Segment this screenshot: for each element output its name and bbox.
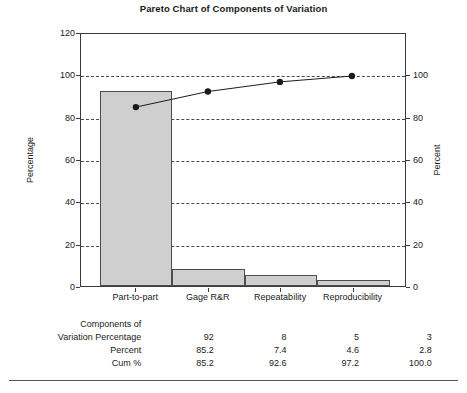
y-tick-mark-left-60	[76, 160, 80, 161]
footer-caption	[20, 384, 460, 393]
y-tick-mark-left-80	[76, 118, 80, 119]
y-tick-label-left-80: 80	[49, 113, 75, 122]
y-tick-mark-right-60	[406, 160, 410, 161]
table-header-spacer	[141, 318, 214, 331]
table-pad	[432, 318, 467, 331]
y-tick-label-left-120: 120	[49, 29, 75, 38]
table-cell-r0-c0: 92	[141, 331, 214, 344]
y-tick-mark-right-100	[406, 75, 410, 76]
y-tick-label-left-20: 20	[49, 240, 75, 249]
table-header-spacer	[359, 318, 432, 331]
table-cell-r2-c0: 85.2	[141, 357, 214, 370]
y-tick-label-left-100: 100	[49, 71, 75, 80]
table-cell-r1-c1: 7.4	[214, 344, 287, 357]
table-row: Percent85.27.44.62.8	[0, 344, 467, 357]
y-tick-label-left-40: 40	[49, 198, 75, 207]
y-tick-label-left-0: 0	[49, 283, 75, 292]
y-tick-mark-right-40	[406, 202, 410, 203]
table-cell-r1-c0: 85.2	[141, 344, 214, 357]
table-pad	[432, 331, 467, 344]
table-header-spacer	[286, 318, 359, 331]
table-cell-r0-c2: 5	[286, 331, 359, 344]
x-tick-label-2: Repeatability	[254, 292, 306, 302]
cumulative-marker-2	[277, 79, 283, 85]
table-pad	[432, 357, 467, 370]
table-cell-r0-c1: 8	[214, 331, 287, 344]
y-tick-mark-right-0	[406, 287, 410, 288]
footer-divider	[9, 380, 458, 381]
table-cell-r2-c2: 97.2	[286, 357, 359, 370]
table-cell-r0-c3: 3	[359, 331, 432, 344]
y-tick-label-right-100: 100	[413, 71, 428, 80]
cumulative-marker-0	[133, 104, 139, 110]
x-tick-label-1: Gage R&R	[186, 292, 230, 302]
y-tick-mark-left-120	[76, 33, 80, 34]
table-row: Cum %85.292.697.2100.0	[0, 357, 467, 370]
table-pad	[432, 344, 467, 357]
cumulative-line	[136, 76, 352, 107]
cumulative-marker-3	[349, 73, 355, 79]
y-tick-mark-left-20	[76, 245, 80, 246]
y-tick-label-right-0: 0	[413, 283, 418, 292]
y-axis-right-title: Percent	[432, 144, 442, 175]
table-cell-r2-c3: 100.0	[359, 357, 432, 370]
pareto-chart: Pareto Chart of Components of Variation …	[0, 0, 467, 393]
y-tick-label-right-40: 40	[413, 198, 423, 207]
table-row-label-2: Cum %	[0, 357, 141, 370]
y-tick-mark-left-0	[76, 287, 80, 288]
x-tick-label-3: Reproducibility	[323, 292, 382, 302]
chart-title: Pareto Chart of Components of Variation	[0, 3, 467, 14]
y-axis-left-title: Percentage	[25, 137, 35, 183]
cumulative-marker-1	[205, 88, 211, 94]
table-row-label-0: Variation Percentage	[0, 331, 141, 344]
y-tick-mark-right-80	[406, 118, 410, 119]
data-table: Components ofVariation Percentage92853Pe…	[0, 318, 467, 370]
table-row: Variation Percentage92853	[0, 331, 467, 344]
y-tick-label-right-80: 80	[413, 113, 423, 122]
table-row-label-1: Percent	[0, 344, 141, 357]
table-header-spacer	[214, 318, 287, 331]
y-tick-mark-right-20	[406, 245, 410, 246]
y-tick-label-left-60: 60	[49, 156, 75, 165]
y-tick-label-right-20: 20	[413, 240, 423, 249]
table-cell-r1-c3: 2.8	[359, 344, 432, 357]
table-header-row: Components of	[0, 318, 467, 331]
cumulative-line-series	[81, 34, 405, 286]
x-tick-label-0: Part-to-part	[112, 292, 158, 302]
y-tick-label-right-60: 60	[413, 156, 423, 165]
y-tick-mark-left-40	[76, 202, 80, 203]
table-cell-r2-c1: 92.6	[214, 357, 287, 370]
table-header-label: Components of	[0, 318, 141, 331]
plot-area	[80, 33, 406, 287]
y-tick-mark-left-100	[76, 75, 80, 76]
table-cell-r1-c2: 4.6	[286, 344, 359, 357]
